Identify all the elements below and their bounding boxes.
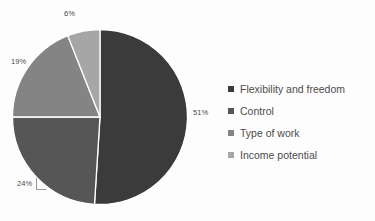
legend-item-control[interactable]: Control [228,100,345,122]
legend-item-label: Control [240,106,274,117]
slice-label-type-of-work: 19% [11,57,26,66]
legend-item-label: Flexibility and freedom [240,84,345,95]
legend-swatch-icon [228,152,234,158]
legend-swatch-icon [228,86,234,92]
slice-label-control: 24% [17,179,32,188]
slice-label-income-potential: 6% [64,9,75,18]
legend-item-income-potential[interactable]: Income potential [228,144,345,166]
pie-slice[interactable] [12,117,100,204]
legend-swatch-icon [228,130,234,136]
slice-label-flexibility-and-freedom: 51% [193,108,208,117]
chart-legend: Flexibility and freedom Control Type of … [228,78,345,166]
pie-slice[interactable] [95,30,188,205]
pie-chart-figure: 6% 19% 24% 51% Flexibility and freedom C… [0,0,375,221]
legend-item-flexibility-and-freedom[interactable]: Flexibility and freedom [228,78,345,100]
slice-label-leader-line [36,178,46,190]
legend-item-label: Income potential [240,150,317,161]
legend-swatch-icon [228,108,234,114]
legend-item-label: Type of work [240,128,300,139]
legend-item-type-of-work[interactable]: Type of work [228,122,345,144]
